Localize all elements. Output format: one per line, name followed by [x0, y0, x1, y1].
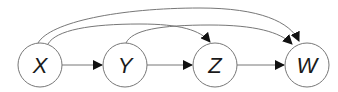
- node-x-label: X: [32, 53, 49, 78]
- dag-canvas: X Y Z W: [0, 0, 338, 92]
- node-x: X: [18, 43, 62, 87]
- node-y: Y: [103, 43, 147, 87]
- edge-x-to-z: [48, 24, 210, 44]
- node-y-label: Y: [118, 53, 134, 78]
- node-z: Z: [193, 43, 237, 87]
- node-w: W: [285, 43, 329, 87]
- node-z-label: Z: [207, 53, 223, 78]
- node-w-label: W: [297, 53, 320, 78]
